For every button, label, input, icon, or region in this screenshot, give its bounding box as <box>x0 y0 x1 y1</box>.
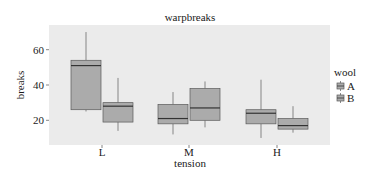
y-tick-label: 40 <box>33 79 45 91</box>
legend-key-B: B <box>337 92 354 104</box>
legend-label: A <box>347 80 355 92</box>
y-axis: 204060 <box>33 44 49 127</box>
legend: wool AB <box>334 66 356 104</box>
x-tick-label: L <box>99 146 106 158</box>
legend-key-A: A <box>337 80 355 92</box>
x-axis-label: tension <box>174 157 206 169</box>
y-tick-label: 60 <box>33 44 45 56</box>
boxplot-chart: warpbreaks 204060 LMH breaks tension woo… <box>0 0 373 179</box>
legend-title: wool <box>334 66 356 78</box>
x-tick-label: H <box>273 146 281 158</box>
chart-title: warpbreaks <box>165 11 216 23</box>
legend-label: B <box>347 92 354 104</box>
y-axis-label: breaks <box>14 71 26 100</box>
y-tick-label: 20 <box>33 114 45 126</box>
box-B-M <box>190 81 220 127</box>
